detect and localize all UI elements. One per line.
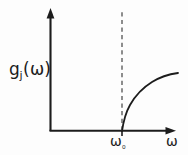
- x-axis-label: ω: [166, 134, 178, 148]
- x-tick-label-subscript: ₀: [122, 141, 126, 151]
- x-tick-label-omega0: ω₀: [110, 134, 126, 151]
- density-of-states-curve: [122, 73, 178, 131]
- y-axis-label: gj(ω): [9, 61, 51, 81]
- y-axis-label-symbol: g: [9, 59, 20, 79]
- y-axis-label-argument: (ω): [23, 59, 51, 79]
- y-axis-arrowhead-icon: [47, 8, 55, 19]
- x-tick-label-symbol: ω: [110, 133, 122, 149]
- density-of-states-figure: gj(ω) ω₀ ω: [0, 0, 188, 155]
